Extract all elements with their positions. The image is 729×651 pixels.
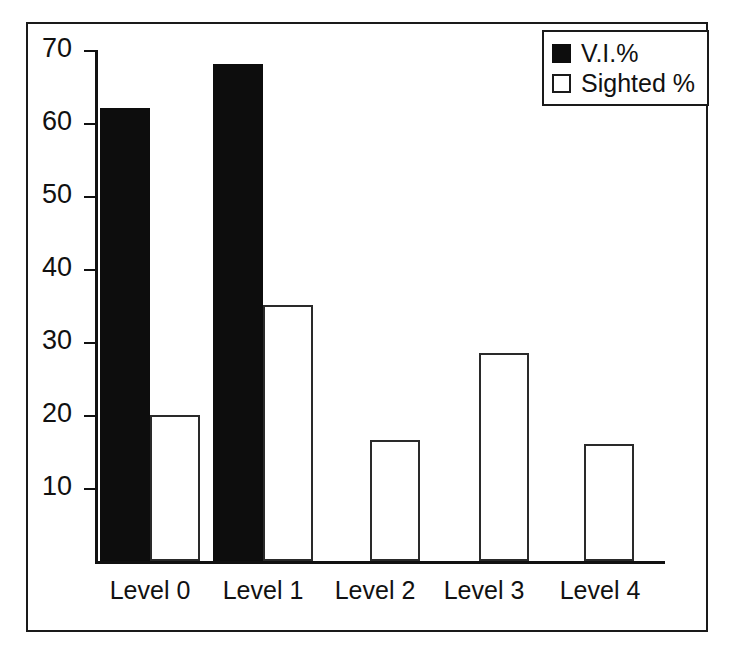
x-axis-line xyxy=(95,561,665,564)
y-tick-mark-10 xyxy=(84,488,96,490)
y-tick-mark-40 xyxy=(84,269,96,271)
y-tick-label-50: 50 xyxy=(16,181,72,208)
bar-vi-level-0 xyxy=(100,108,150,561)
bar-sighted-level-1 xyxy=(263,305,313,561)
legend-swatch-open-square-icon xyxy=(552,74,571,93)
x-tick-label-level-4: Level 4 xyxy=(530,575,670,605)
y-tick-mark-60 xyxy=(84,123,96,125)
y-tick-mark-70 xyxy=(84,50,96,52)
bar-sighted-level-4 xyxy=(584,444,634,561)
y-tick-mark-50 xyxy=(84,196,96,198)
bar-chart-figure: 70 60 50 40 30 20 10 Level 0 Level 1 Lev… xyxy=(0,0,729,651)
y-tick-mark-20 xyxy=(84,415,96,417)
y-tick-label-60: 60 xyxy=(16,108,72,135)
bar-sighted-level-2 xyxy=(370,440,420,561)
bar-sighted-level-0 xyxy=(150,415,200,561)
legend-item-sighted: Sighted % xyxy=(552,68,695,98)
legend-swatch-filled-square-icon xyxy=(552,44,571,63)
y-tick-label-20: 20 xyxy=(16,400,72,427)
bar-vi-level-1 xyxy=(213,64,263,561)
legend-label-vi: V.I.% xyxy=(581,41,638,66)
bar-sighted-level-3 xyxy=(479,353,529,561)
y-tick-label-10: 10 xyxy=(16,473,72,500)
y-tick-label-40: 40 xyxy=(16,254,72,281)
plot-area: 70 60 50 40 30 20 10 Level 0 Level 1 Lev… xyxy=(0,0,729,651)
y-axis-line xyxy=(95,50,98,564)
y-tick-label-70: 70 xyxy=(16,35,72,62)
legend-label-sighted: Sighted % xyxy=(581,71,695,96)
y-tick-mark-30 xyxy=(84,342,96,344)
chart-legend: V.I.% Sighted % xyxy=(542,30,709,106)
legend-item-vi: V.I.% xyxy=(552,38,695,68)
y-tick-label-30: 30 xyxy=(16,327,72,354)
